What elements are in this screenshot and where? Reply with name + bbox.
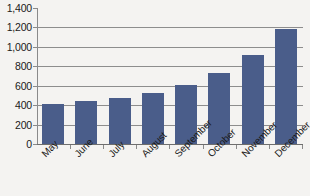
y-axis-tick: [33, 8, 37, 9]
x-axis-tick: [136, 145, 137, 149]
x-axis-tick: [302, 145, 303, 149]
x-axis-tick: [269, 145, 270, 149]
y-axis-tick-label: 800: [2, 61, 32, 72]
bar-series: [37, 8, 303, 144]
y-axis-tick: [33, 144, 37, 145]
y-axis-tick: [33, 125, 37, 126]
y-axis-tick: [33, 86, 37, 87]
y-axis-tick: [33, 27, 37, 28]
x-axis-tick: [169, 145, 170, 149]
y-axis-tick-label: 400: [2, 100, 32, 111]
x-axis-tick: [103, 145, 104, 149]
x-axis-tick: [236, 145, 237, 149]
bar-chart: 02004006008001,0001,2001,400 MayJuneJuly…: [0, 0, 310, 196]
y-axis-tick-label: 1,200: [2, 22, 32, 33]
y-axis-tick-label: 0: [2, 139, 32, 150]
x-axis-tick: [70, 145, 71, 149]
y-axis-tick: [33, 66, 37, 67]
x-axis-tick: [203, 145, 204, 149]
y-axis-tick: [33, 105, 37, 106]
y-axis-tick-label: 1,000: [2, 42, 32, 53]
y-axis-tick-labels: 02004006008001,0001,2001,400: [0, 0, 32, 196]
y-axis-tick-label: 1,400: [2, 3, 32, 14]
y-axis-tick-label: 200: [2, 120, 32, 131]
y-axis-tick-label: 600: [2, 81, 32, 92]
plot-area: [37, 8, 303, 144]
bar: [109, 98, 131, 144]
y-axis-tick: [33, 47, 37, 48]
